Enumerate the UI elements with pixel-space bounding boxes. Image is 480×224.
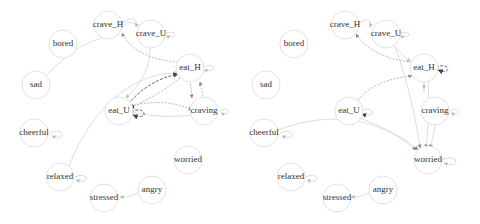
node-angry-right[interactable]: angry <box>369 176 397 204</box>
node-label: crave_U <box>136 28 167 38</box>
node-stressed-right[interactable]: stressed <box>323 184 352 212</box>
node-cheerful-left[interactable]: cheerful <box>19 119 49 147</box>
node-label: angry <box>373 184 394 194</box>
node-label: eat_U <box>338 105 360 115</box>
node-label: crave_H <box>330 19 361 29</box>
node-label: angry <box>142 184 163 194</box>
node-label: sad <box>30 79 42 89</box>
node-relaxed-right[interactable]: relaxed <box>277 163 305 191</box>
node-bored-left[interactable]: bored <box>49 30 77 58</box>
node-eat-u-left[interactable]: eat_U <box>105 97 133 125</box>
node-label: stressed <box>90 192 119 202</box>
node-label: relaxed <box>47 171 74 181</box>
node-sad-right[interactable]: sad <box>252 71 280 99</box>
node-worried-left[interactable]: worried <box>174 146 202 174</box>
node-eat-h-right[interactable]: eat_H <box>410 54 438 82</box>
node-eat-h-left[interactable]: eat_H <box>176 54 204 82</box>
node-cheerful-right[interactable]: cheerful <box>249 119 279 147</box>
node-label: crave_H <box>93 19 124 29</box>
node-eat-u-right[interactable]: eat_U <box>335 97 363 125</box>
node-label: craving <box>191 105 218 115</box>
node-crave-u-right[interactable]: crave_U <box>371 20 402 48</box>
node-label: sad <box>260 79 272 89</box>
node-label: crave_U <box>371 28 402 38</box>
node-label: bored <box>284 38 305 48</box>
left-graph: crave_H crave_U bored sad eat_H eat_U cr… <box>19 11 218 212</box>
node-label: worried <box>414 154 442 164</box>
node-label: eat_H <box>179 62 201 72</box>
node-label: cheerful <box>19 127 49 137</box>
node-label: worried <box>174 154 202 164</box>
node-stressed-left[interactable]: stressed <box>90 184 119 212</box>
node-sad-left[interactable]: sad <box>22 71 50 99</box>
node-worried-right[interactable]: worried <box>414 146 442 174</box>
node-label: craving <box>422 105 449 115</box>
node-angry-left[interactable]: angry <box>138 176 166 204</box>
node-craving-left[interactable]: craving <box>190 97 218 125</box>
node-label: eat_U <box>108 105 130 115</box>
node-craving-right[interactable]: craving <box>421 97 449 125</box>
node-relaxed-left[interactable]: relaxed <box>46 163 74 191</box>
node-crave-u-left[interactable]: crave_U <box>136 20 167 48</box>
node-label: relaxed <box>278 171 305 181</box>
node-label: cheerful <box>249 127 279 137</box>
node-label: stressed <box>323 192 352 202</box>
right-graph: crave_H crave_U bored sad eat_H eat_U cr… <box>249 11 449 212</box>
node-label: eat_H <box>413 62 435 72</box>
node-bored-right[interactable]: bored <box>280 30 308 58</box>
node-crave-h-left[interactable]: crave_H <box>93 11 124 39</box>
node-label: bored <box>53 38 74 48</box>
graph-canvas: crave_H crave_U bored sad eat_H eat_U cr… <box>0 0 480 224</box>
